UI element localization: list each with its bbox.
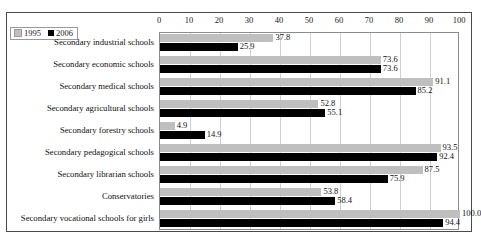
x-tick-label-50: 50: [305, 15, 314, 25]
category-label-8: Secondary vocational schools for girls: [8, 213, 154, 224]
bar-group-7: 53.858.4: [160, 187, 458, 209]
bar-value-2006-4: 14.9: [207, 130, 222, 139]
bar-1995-4[interactable]: [160, 122, 175, 130]
bar-group-4: 4.914.9: [160, 121, 458, 143]
plot-area: 37.825.973.673.691.185.252.855.14.914.99…: [159, 32, 459, 230]
bar-2006-8[interactable]: [160, 219, 443, 227]
category-label-6: Secondary librarian schools: [8, 169, 154, 180]
bar-group-0: 37.825.9: [160, 33, 458, 55]
category-label-4: Secondary forestry schools: [8, 125, 154, 136]
bar-value-2006-8: 94.4: [445, 218, 460, 227]
bar-1995-8[interactable]: [160, 210, 460, 218]
category-label-7: Conservatories: [8, 191, 154, 202]
bar-2006-1[interactable]: [160, 65, 381, 73]
bar-1995-6[interactable]: [160, 166, 423, 174]
bar-2006-3[interactable]: [160, 109, 325, 117]
bar-value-2006-3: 55.1: [327, 108, 342, 117]
bar-2006-0[interactable]: [160, 43, 238, 51]
x-tick-label-20: 20: [215, 15, 224, 25]
bar-value-1995-0: 37.8: [275, 33, 290, 42]
bar-value-1995-2: 91.1: [435, 77, 450, 86]
bar-value-2006-0: 25.9: [240, 42, 255, 51]
bar-1995-2[interactable]: [160, 78, 433, 86]
x-tick-label-60: 60: [335, 15, 344, 25]
bar-2006-2[interactable]: [160, 87, 416, 95]
x-tick-label-40: 40: [275, 15, 284, 25]
bar-2006-4[interactable]: [160, 131, 205, 139]
bar-value-2006-6: 75.9: [390, 174, 405, 183]
bar-group-3: 52.855.1: [160, 99, 458, 121]
bar-value-2006-5: 92.4: [439, 152, 454, 161]
bar-1995-7[interactable]: [160, 188, 321, 196]
bar-1995-5[interactable]: [160, 144, 441, 152]
bar-value-1995-8: 100.0: [462, 209, 481, 218]
bar-group-8: 100.094.4: [160, 209, 458, 231]
x-tick-label-0: 0: [157, 15, 161, 25]
bar-2006-7[interactable]: [160, 197, 335, 205]
category-label-3: Secondary agricultural schools: [8, 103, 154, 114]
bar-value-1995-7: 53.8: [323, 187, 338, 196]
ghost-text-strip: · · · ·: [0, 0, 479, 11]
bar-1995-1[interactable]: [160, 56, 381, 64]
x-tick-label-30: 30: [245, 15, 254, 25]
chart-frame: 0102030405060708090100 19952006 Secondar…: [6, 12, 472, 232]
ghost-text: · · · ·: [0, 0, 17, 3]
bar-value-1995-6: 87.5: [425, 165, 440, 174]
bar-2006-6[interactable]: [160, 175, 388, 183]
bar-value-2006-1: 73.6: [383, 64, 398, 73]
bar-value-1995-4: 4.9: [177, 121, 188, 130]
bar-value-2006-7: 58.4: [337, 196, 352, 205]
category-label-0: Secondary industrial schools: [8, 37, 154, 48]
bar-group-5: 93.592.4: [160, 143, 458, 165]
x-tick-label-10: 10: [185, 15, 194, 25]
x-tick-label-80: 80: [395, 15, 404, 25]
x-tick-label-70: 70: [365, 15, 374, 25]
bar-value-2006-2: 85.2: [418, 86, 433, 95]
category-label-5: Secondary pedagogical schools: [8, 147, 154, 158]
category-label-1: Secondary economic schools: [8, 59, 154, 70]
bar-group-6: 87.575.9: [160, 165, 458, 187]
category-label-2: Secondary medical schools: [8, 81, 154, 92]
bar-1995-0[interactable]: [160, 34, 273, 42]
bar-1995-3[interactable]: [160, 100, 318, 108]
x-tick-label-100: 100: [453, 15, 466, 25]
x-tick-label-90: 90: [425, 15, 434, 25]
bar-2006-5[interactable]: [160, 153, 437, 161]
category-axis-labels: Secondary industrial schoolsSecondary ec…: [7, 32, 157, 230]
bar-group-2: 91.185.2: [160, 77, 458, 99]
bar-group-1: 73.673.6: [160, 55, 458, 77]
